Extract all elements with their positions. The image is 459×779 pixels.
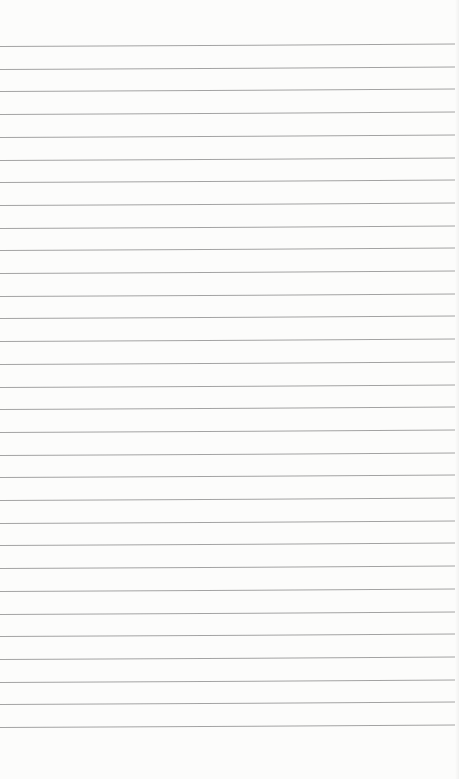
ruled-line <box>0 430 456 433</box>
ruled-line <box>0 520 456 523</box>
ruled-line <box>0 407 456 410</box>
ruled-line <box>0 157 456 160</box>
ruled-line <box>0 566 456 569</box>
ruled-line <box>0 248 456 251</box>
ruled-line <box>0 112 456 115</box>
ruled-line <box>0 475 456 478</box>
lined-paper <box>0 0 459 779</box>
ruled-line <box>0 361 456 364</box>
ruled-line <box>0 543 456 546</box>
ruled-line <box>0 271 456 274</box>
ruled-line <box>0 498 456 501</box>
ruled-line <box>0 203 456 206</box>
ruled-line <box>0 225 456 228</box>
ruled-line <box>0 588 456 591</box>
ruled-line <box>0 89 456 92</box>
ruled-line <box>0 702 456 705</box>
paper-edge <box>455 0 459 779</box>
ruled-line <box>0 725 456 728</box>
ruled-line <box>0 293 456 296</box>
ruled-line <box>0 634 456 637</box>
ruled-line <box>0 679 456 682</box>
ruled-line <box>0 452 456 455</box>
ruled-line <box>0 180 456 183</box>
ruled-line <box>0 339 456 342</box>
ruled-line <box>0 611 456 614</box>
ruled-line <box>0 134 456 137</box>
ruled-lines <box>0 0 459 779</box>
ruled-line <box>0 384 456 387</box>
ruled-line <box>0 316 456 319</box>
ruled-line <box>0 66 456 69</box>
ruled-line <box>0 44 456 47</box>
ruled-line <box>0 657 456 660</box>
